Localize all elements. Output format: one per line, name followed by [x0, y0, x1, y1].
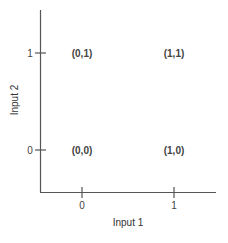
- point-label-1-1: (1,1): [164, 48, 185, 59]
- x-axis-label: Input 1: [113, 217, 144, 228]
- x-tick-label-1: 1: [171, 200, 177, 211]
- x-tick-label-0: 0: [79, 200, 85, 211]
- chart: 1 0 0 1 Input 1 Input 2 (0,1) (1,1) (0,0…: [0, 0, 228, 243]
- y-tick-label-1: 1: [27, 48, 33, 59]
- y-tick-label-0: 0: [27, 145, 33, 156]
- point-label-0-1: (0,1): [72, 48, 93, 59]
- point-label-0-0: (0,0): [72, 145, 93, 156]
- point-label-1-0: (1,0): [164, 145, 185, 156]
- y-axis-label: Input 2: [9, 84, 20, 115]
